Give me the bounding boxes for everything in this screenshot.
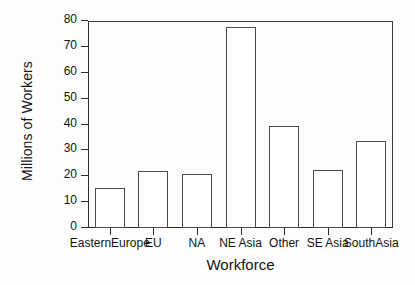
y-axis-tick-label: 20 — [64, 167, 77, 182]
y-axis-tick-label: 30 — [64, 141, 77, 156]
y-axis-line — [88, 21, 89, 228]
plot-frame-top — [88, 21, 393, 22]
x-axis-tick — [153, 228, 154, 235]
x-axis-tick — [328, 228, 329, 235]
y-axis-title: Millions of Workers — [19, 26, 35, 216]
x-axis-tick-labels: EasternEuropeEUNANE AsiaOtherSE AsiaSout… — [88, 236, 393, 253]
y-axis-tick: 50 — [81, 98, 88, 99]
x-axis-tick — [197, 228, 198, 235]
y-axis-tick: 60 — [81, 72, 88, 73]
x-axis-title: Workforce — [88, 256, 393, 273]
y-axis-tick: 70 — [81, 46, 88, 47]
plot-area: 01020304050607080 — [88, 21, 393, 228]
bar — [182, 174, 212, 228]
x-axis-tick — [241, 228, 242, 235]
y-axis-tick-label: 80 — [64, 12, 77, 27]
y-axis-tick-label: 40 — [64, 116, 77, 131]
x-axis-tick-label: SE Asia — [307, 236, 349, 251]
y-axis-tick-label: 0 — [70, 219, 77, 234]
x-axis-tick — [110, 228, 111, 235]
y-axis-tick-label: 50 — [64, 90, 77, 105]
plot-frame-right — [392, 21, 393, 228]
y-axis-tick: 40 — [81, 124, 88, 125]
x-axis-tick-label: SouthAsia — [344, 236, 399, 251]
y-axis-tick: 80 — [81, 20, 88, 21]
x-axis-tick-label: Other — [269, 236, 299, 251]
bar — [269, 126, 299, 228]
y-axis-tick-label: 60 — [64, 64, 77, 79]
x-axis-tick — [371, 228, 372, 235]
y-axis-tick: 30 — [81, 149, 88, 150]
y-axis-tick: 20 — [81, 175, 88, 176]
bar — [95, 188, 125, 228]
y-axis-tick: 10 — [81, 201, 88, 202]
x-axis-tick-label: EasternEurope — [70, 236, 150, 251]
x-axis-tick-label: NA — [189, 236, 206, 251]
x-axis-tick-label: NE Asia — [219, 236, 262, 251]
bar-chart: Millions of Workers 01020304050607080 Ea… — [0, 0, 415, 285]
y-axis-tick: 0 — [81, 227, 88, 228]
y-axis-tick-label: 10 — [64, 193, 77, 208]
bar — [138, 171, 168, 228]
bar — [226, 27, 256, 228]
y-axis-tick-label: 70 — [64, 38, 77, 53]
x-axis-tick — [284, 228, 285, 235]
bar — [356, 141, 386, 228]
x-axis-tick-label: EU — [145, 236, 162, 251]
bar — [313, 170, 343, 228]
